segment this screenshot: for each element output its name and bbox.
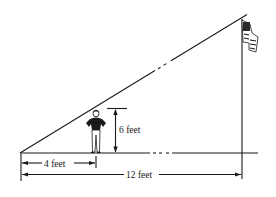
arrowhead-up-icon bbox=[113, 109, 117, 115]
shadow-person-label: 4 feet bbox=[44, 159, 66, 169]
arrowhead-right-icon bbox=[235, 173, 241, 177]
arrowhead-down-icon bbox=[113, 147, 117, 153]
flag-icon bbox=[242, 20, 258, 52]
arrowhead-left-icon bbox=[22, 173, 28, 177]
person-figure bbox=[86, 110, 106, 153]
similar-triangles-diagram: 6 feet 4 feet 12 feet bbox=[0, 0, 276, 197]
arrowhead-right-icon bbox=[89, 161, 95, 165]
arrowhead-left-icon bbox=[22, 161, 28, 165]
shadow-pole-label: 12 feet bbox=[126, 170, 152, 180]
person-height-label: 6 feet bbox=[119, 125, 141, 135]
